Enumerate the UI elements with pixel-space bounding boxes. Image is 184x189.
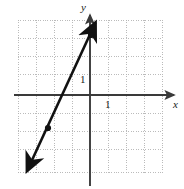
data-point — [45, 125, 51, 131]
y-axis-label: y — [81, 2, 86, 13]
x-axis-label: x — [173, 99, 178, 110]
x-unit-tick-label: 1 — [105, 99, 111, 110]
y-unit-tick-label: 1 — [80, 74, 86, 85]
plotted-line — [27, 23, 96, 172]
coordinate-plane-svg — [0, 0, 184, 189]
data-point — [88, 32, 94, 38]
graph-figure: y x 1 1 — [0, 0, 184, 189]
